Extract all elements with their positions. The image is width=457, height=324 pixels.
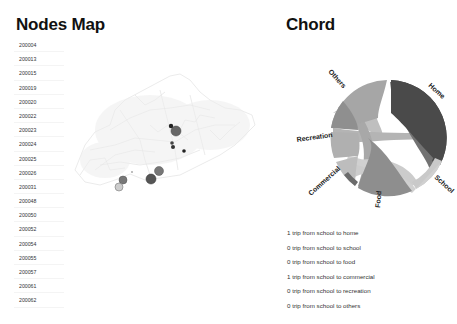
node-list-item[interactable]: 200015 xyxy=(14,66,64,80)
node-marker[interactable] xyxy=(155,167,164,176)
arc-recreation[interactable] xyxy=(331,132,360,158)
node-list-item[interactable]: 200062 xyxy=(14,293,64,307)
chord-label-commercial: Commercial xyxy=(307,165,342,197)
trip-summary-item: 0 trip from school to food xyxy=(287,255,375,270)
trip-summary-item: 0 trip from school to school xyxy=(287,241,375,256)
road-network-fill xyxy=(80,95,250,178)
node-marker[interactable] xyxy=(170,141,174,145)
node-list-item[interactable]: 200052 xyxy=(14,222,64,236)
node-list-item[interactable]: 200026 xyxy=(14,166,64,180)
node-marker[interactable] xyxy=(171,145,175,149)
node-list-item[interactable]: 200013 xyxy=(14,52,64,66)
chord-label-others: Others xyxy=(327,68,347,90)
chord-label-school: School xyxy=(433,174,455,195)
chord-label-recreation: Recreation xyxy=(296,131,333,143)
node-list-item[interactable]: 200024 xyxy=(14,137,64,151)
chord-label-home: Home xyxy=(427,82,446,100)
trip-summary-item: 1 trip from school to commercial xyxy=(287,270,375,285)
node-marker[interactable] xyxy=(146,174,156,184)
node-list-item[interactable]: 200048 xyxy=(14,194,64,208)
trip-summary-item: 1 trip from school to home xyxy=(287,226,375,241)
nodes-map-title: Nodes Map xyxy=(16,15,105,35)
node-marker[interactable] xyxy=(119,176,127,184)
node-marker[interactable] xyxy=(115,183,123,191)
trip-summary-list: 1 trip from school to home 0 trip from s… xyxy=(287,226,375,313)
trip-summary-item: 0 trip from school to others xyxy=(287,299,375,314)
node-list-item[interactable]: 200054 xyxy=(14,237,64,251)
node-list-item[interactable]: 200020 xyxy=(14,95,64,109)
chord-label-food: Food xyxy=(374,190,382,208)
chord-title: Chord xyxy=(286,15,335,35)
node-id-list: 200004 200013 200015 200019 200020 20002… xyxy=(14,38,64,308)
node-marker[interactable] xyxy=(169,124,173,128)
node-list-item[interactable]: 200022 xyxy=(14,109,64,123)
node-list-item[interactable]: 200031 xyxy=(14,180,64,194)
nodes-map[interactable] xyxy=(60,70,260,200)
node-list-item[interactable]: 200057 xyxy=(14,265,64,279)
node-list-item[interactable]: 200025 xyxy=(14,152,64,166)
node-list-item[interactable]: 200004 xyxy=(14,38,64,52)
trip-summary-item: 0 trip from school to recreation xyxy=(287,284,375,299)
node-marker[interactable] xyxy=(182,149,186,153)
chord-diagram[interactable]: Home School Food Commercial Recreation O… xyxy=(290,60,457,210)
node-list-item[interactable]: 200023 xyxy=(14,123,64,137)
node-list-item[interactable]: 200061 xyxy=(14,279,64,293)
node-list-item[interactable]: 200050 xyxy=(14,208,64,222)
node-list-item[interactable]: 200019 xyxy=(14,81,64,95)
node-marker[interactable] xyxy=(131,171,133,173)
node-list-item[interactable]: 200055 xyxy=(14,251,64,265)
